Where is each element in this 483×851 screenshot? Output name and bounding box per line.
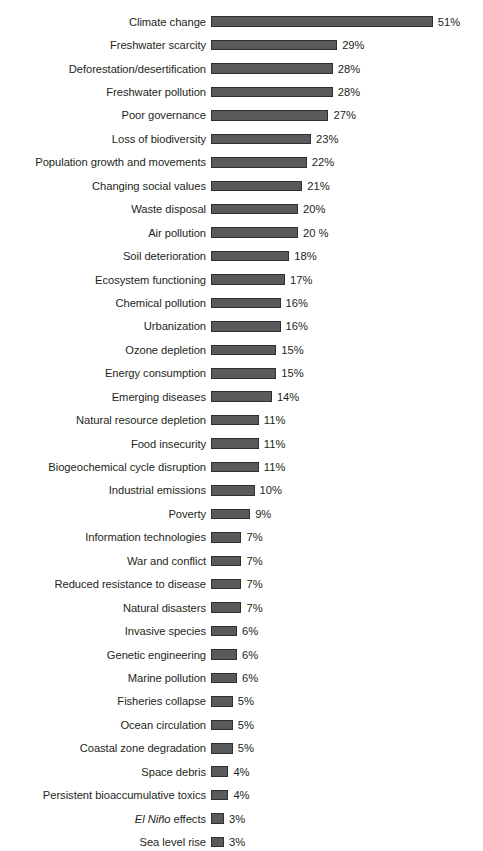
bar-area: 20% bbox=[211, 203, 483, 215]
bar-row: Invasive species6% bbox=[0, 619, 483, 642]
bar-area: 11% bbox=[211, 414, 483, 426]
bar bbox=[211, 391, 272, 402]
category-label: Soil deterioration bbox=[0, 250, 211, 262]
value-label: 6% bbox=[237, 625, 258, 637]
bar bbox=[211, 321, 281, 332]
bar-area: 6% bbox=[211, 625, 483, 637]
category-label: Freshwater pollution bbox=[0, 86, 211, 98]
bar-area: 23% bbox=[211, 133, 483, 145]
bar-row: Reduced resistance to disease7% bbox=[0, 573, 483, 596]
bar-area: 15% bbox=[211, 367, 483, 379]
value-label: 9% bbox=[250, 508, 271, 520]
bar bbox=[211, 204, 298, 215]
bar-row: Urbanization16% bbox=[0, 315, 483, 338]
value-label: 7% bbox=[241, 531, 262, 543]
bar-row: Persistent bioaccumulative toxics4% bbox=[0, 783, 483, 806]
category-label: Coastal zone degradation bbox=[0, 742, 211, 754]
bar-row: Climate change51% bbox=[0, 10, 483, 33]
value-label: 7% bbox=[241, 602, 262, 614]
bar-area: 5% bbox=[211, 742, 483, 754]
value-label: 4% bbox=[228, 789, 249, 801]
bar bbox=[211, 298, 281, 309]
bar-row: Changing social values21% bbox=[0, 174, 483, 197]
value-label: 51% bbox=[433, 16, 460, 28]
bar bbox=[211, 134, 311, 145]
value-label: 20 % bbox=[298, 227, 329, 239]
category-label: Emerging diseases bbox=[0, 391, 211, 403]
value-label: 18% bbox=[289, 250, 316, 262]
value-label: 11% bbox=[259, 414, 286, 426]
category-label: Biogeochemical cycle disruption bbox=[0, 461, 211, 473]
bar-row: Ocean circulation5% bbox=[0, 713, 483, 736]
bar-area: 10% bbox=[211, 484, 483, 496]
bar-row: Biogeochemical cycle disruption11% bbox=[0, 455, 483, 478]
bar-row: Natural disasters7% bbox=[0, 596, 483, 619]
value-label: 20% bbox=[298, 203, 325, 215]
category-label: Waste disposal bbox=[0, 203, 211, 215]
value-label: 21% bbox=[302, 180, 329, 192]
category-label: Food insecurity bbox=[0, 438, 211, 450]
bar-area: 11% bbox=[211, 461, 483, 473]
bar-row: Space debris4% bbox=[0, 760, 483, 783]
bar bbox=[211, 462, 259, 473]
bar-row: Natural resource depletion11% bbox=[0, 408, 483, 431]
bar bbox=[211, 743, 233, 754]
value-label: 23% bbox=[311, 133, 338, 145]
category-label: Natural resource depletion bbox=[0, 414, 211, 426]
bar bbox=[211, 649, 237, 660]
bar-row: Poverty9% bbox=[0, 502, 483, 525]
bar-area: 3% bbox=[211, 836, 483, 848]
category-label: Ocean circulation bbox=[0, 719, 211, 731]
bar-row: Poor governance27% bbox=[0, 104, 483, 127]
bar bbox=[211, 509, 250, 520]
bar-row: Ozone depletion15% bbox=[0, 338, 483, 361]
bar-row: Coastal zone degradation5% bbox=[0, 737, 483, 760]
bar bbox=[211, 626, 237, 637]
value-label: 7% bbox=[241, 578, 262, 590]
category-label: Deforestation/desertification bbox=[0, 63, 211, 75]
bar-area: 6% bbox=[211, 672, 483, 684]
bar-row: Freshwater scarcity29% bbox=[0, 33, 483, 56]
value-label: 5% bbox=[233, 719, 254, 731]
category-label: Persistent bioaccumulative toxics bbox=[0, 789, 211, 801]
bar-row: Emerging diseases14% bbox=[0, 385, 483, 408]
value-label: 6% bbox=[237, 672, 258, 684]
bar bbox=[211, 837, 224, 848]
bar-area: 11% bbox=[211, 438, 483, 450]
bar-row: Industrial emissions10% bbox=[0, 479, 483, 502]
bar-area: 7% bbox=[211, 531, 483, 543]
value-label: 15% bbox=[276, 344, 303, 356]
category-label: Ecosystem functioning bbox=[0, 274, 211, 286]
bar-row: Soil deterioration18% bbox=[0, 244, 483, 267]
bar bbox=[211, 40, 337, 51]
bar bbox=[211, 16, 433, 27]
bar-row: Food insecurity11% bbox=[0, 432, 483, 455]
value-label: 27% bbox=[328, 109, 355, 121]
category-label: Freshwater scarcity bbox=[0, 39, 211, 51]
bar bbox=[211, 415, 259, 426]
category-label: Urbanization bbox=[0, 320, 211, 332]
value-label: 5% bbox=[233, 742, 254, 754]
value-label: 28% bbox=[333, 86, 360, 98]
value-label: 11% bbox=[259, 461, 286, 473]
bar-row: Deforestation/desertification28% bbox=[0, 57, 483, 80]
bar bbox=[211, 227, 298, 238]
bar bbox=[211, 556, 241, 567]
bar-row: Genetic engineering6% bbox=[0, 643, 483, 666]
bar-area: 51% bbox=[211, 16, 483, 28]
bar-area: 28% bbox=[211, 86, 483, 98]
bar-area: 22% bbox=[211, 156, 483, 168]
category-label: Loss of biodiversity bbox=[0, 133, 211, 145]
bar bbox=[211, 110, 328, 121]
bar-area: 27% bbox=[211, 109, 483, 121]
bar-row: Ecosystem functioning17% bbox=[0, 268, 483, 291]
value-label: 28% bbox=[333, 63, 360, 75]
category-label: Climate change bbox=[0, 16, 211, 28]
category-label: Ozone depletion bbox=[0, 344, 211, 356]
bar-area: 21% bbox=[211, 180, 483, 192]
bar-row: Waste disposal20% bbox=[0, 198, 483, 221]
bar-area: 20 % bbox=[211, 227, 483, 239]
bar-row: Information technologies7% bbox=[0, 526, 483, 549]
value-label: 3% bbox=[224, 836, 245, 848]
value-label: 15% bbox=[276, 367, 303, 379]
